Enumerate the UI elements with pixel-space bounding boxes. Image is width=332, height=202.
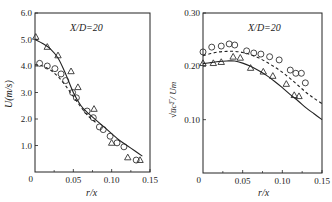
right-circle-marker	[298, 70, 304, 76]
left-x-tick-label: 0.10	[104, 175, 120, 185]
right-x-tick-label: 0.05	[235, 176, 251, 186]
right-plot-frame	[203, 13, 322, 173]
right-x-tick-label: 0.10	[274, 176, 290, 186]
right-circle-marker	[287, 67, 293, 73]
left-plot-frame	[35, 13, 150, 172]
velocity-profile-chart: 01.02.03.04.05.06.0 0.050.100.15 X/D=20 …	[3, 8, 158, 198]
left-triangle-marker	[68, 68, 74, 74]
left-y-tick-label: 2.0	[21, 114, 33, 124]
left-annotation: X/D=20	[69, 22, 103, 33]
right-y-tick-label: 0	[197, 175, 202, 185]
right-triangle-marker	[230, 53, 236, 59]
left-y-tick-label: 6.0	[21, 8, 33, 18]
right-circle-marker	[293, 70, 299, 76]
left-triangle-marker	[125, 154, 131, 160]
right-y-tick-label: 0.10	[184, 115, 200, 125]
right-circle-marker	[276, 57, 282, 63]
right-x-axis-title: r/x	[258, 187, 270, 198]
right-triangle-marker	[237, 55, 243, 61]
left-y-tick-label: 5.0	[21, 35, 33, 45]
right-x-tick-label: 0.15	[314, 176, 330, 186]
right-circle-marker	[258, 51, 264, 57]
right-x-axis: 0.050.100.15	[223, 170, 331, 186]
left-circle-marker	[52, 66, 58, 72]
right-y-axis-title: √u̅c²̅ / Um	[168, 81, 178, 118]
right-circle-marker	[267, 54, 273, 60]
right-triangle-marker	[283, 81, 289, 87]
left-x-axis-title: r/x	[86, 187, 98, 198]
figure: 01.02.03.04.05.06.0 0.050.100.15 X/D=20 …	[0, 0, 332, 202]
right-y-tick-label: 0.30	[184, 8, 200, 18]
right-y-tick-label: 0.20	[184, 61, 200, 71]
left-y-tick-label: 3.0	[21, 88, 33, 98]
left-triangle-marker	[75, 84, 81, 90]
turbulence-intensity-chart: 00.100.200.30 0.050.100.15 X/D=20 √u̅c²̅…	[168, 8, 330, 198]
left-y-axis-title: U(m/s)	[3, 80, 15, 108]
left-y-tick-label: 4.0	[21, 61, 33, 71]
left-series	[33, 34, 144, 164]
right-circle-marker	[209, 44, 215, 50]
left-triangle-marker	[91, 106, 97, 112]
left-circle-marker	[58, 71, 64, 77]
right-circle-marker	[218, 43, 224, 49]
right-annotation: X/D=20	[247, 22, 281, 33]
left-y-tick-label: 0	[29, 174, 34, 184]
left-y-tick-label: 1.0	[21, 141, 33, 151]
right-circle-marker	[226, 41, 232, 47]
right-circle-marker	[232, 42, 238, 48]
left-x-axis: 0.050.100.15	[54, 169, 158, 185]
right-triangle-marker	[270, 73, 276, 79]
left-triangle-marker	[33, 34, 39, 40]
left-circle-marker	[114, 140, 120, 146]
right-series	[200, 41, 322, 120]
left-x-tick-label: 0.15	[142, 175, 158, 185]
left-solid-curve	[35, 40, 142, 157]
left-x-tick-label: 0.05	[65, 175, 81, 185]
right-circle-marker	[302, 80, 308, 86]
